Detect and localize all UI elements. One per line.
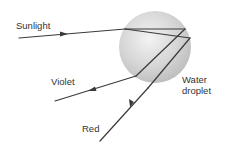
red-label: Red [82, 123, 99, 134]
water-droplet-label-line1: Water [182, 74, 211, 85]
sunlight-arrow-icon [60, 32, 68, 37]
water-droplet [119, 11, 191, 83]
water-droplet-label-line2: droplet [182, 85, 211, 96]
violet-label: Violet [51, 76, 75, 87]
water-droplet-label: Water droplet [182, 74, 211, 96]
sunlight-label: Sunlight [16, 20, 50, 31]
violet-arrow-icon [88, 87, 97, 92]
red-exit-ray [100, 88, 148, 141]
